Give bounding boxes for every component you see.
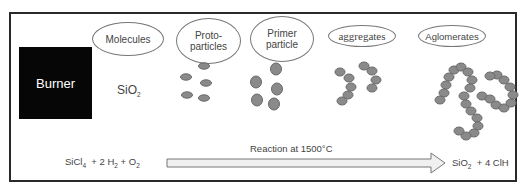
reaction-condition: Reaction at 1500°C (250, 143, 333, 154)
reactants-formula: SiCl4 + 2 H2 + O2 (65, 156, 140, 169)
products-formula: SiO2 + 4 ClH (452, 157, 509, 170)
reaction-arrow (167, 153, 445, 173)
